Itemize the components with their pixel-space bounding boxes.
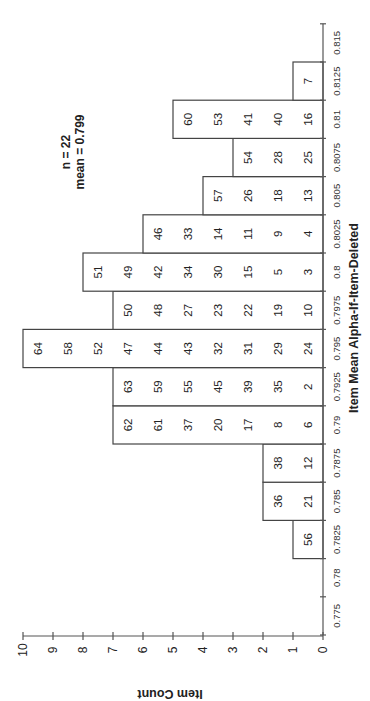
- item-number-label: 64: [32, 342, 44, 355]
- histogram-chart: 5621361238681720376162235394555596324293…: [0, 0, 370, 701]
- item-number-label: 45: [212, 380, 224, 393]
- item-number-label: 44: [152, 342, 164, 355]
- item-number-label: 15: [242, 266, 254, 279]
- item-number-label: 31: [242, 342, 254, 355]
- item-number-label: 11: [242, 228, 254, 240]
- alpha-axis: 0.7750.780.78250.7850.78750.790.79250.79…: [320, 24, 342, 635]
- item-number-label: 2: [302, 383, 314, 389]
- item-number-label: 20: [212, 419, 224, 432]
- item-number-label: 14: [212, 227, 224, 240]
- item-number-label: 46: [152, 228, 164, 241]
- annotation-mean: mean = 0.799: [73, 114, 87, 189]
- item-number-label: 39: [242, 380, 254, 393]
- alpha-tick-label: 0.7875: [331, 449, 342, 478]
- count-tick-label: 8: [76, 646, 90, 653]
- item-number-label: 62: [122, 419, 134, 432]
- alpha-axis-title: Item Mean Alpha-If-Item-Deleted: [347, 223, 361, 413]
- alpha-tick-label: 0.81: [331, 110, 342, 129]
- alpha-tick-label: 0.7925: [331, 372, 342, 401]
- item-number-label: 24: [302, 342, 314, 355]
- alpha-tick-label: 0.805: [331, 184, 342, 208]
- alpha-tick-label: 0.7975: [331, 296, 342, 325]
- count-tick-label: 4: [196, 646, 210, 653]
- item-number-label: 16: [302, 113, 314, 126]
- alpha-tick-label: 0.8: [331, 265, 342, 278]
- item-number-label: 53: [212, 113, 224, 126]
- item-number-label: 38: [272, 457, 284, 470]
- count-tick-label: 0: [316, 646, 330, 653]
- count-tick-label: 7: [106, 646, 120, 653]
- item-number-label: 49: [122, 266, 134, 279]
- item-number-label: 29: [272, 342, 284, 355]
- item-number-label: 57: [212, 189, 224, 202]
- item-number-label: 37: [182, 419, 194, 432]
- item-number-label: 17: [242, 419, 254, 432]
- item-number-label: 40: [272, 113, 284, 126]
- item-number-label: 26: [242, 189, 254, 202]
- item-number-label: 19: [272, 304, 284, 317]
- item-number-label: 30: [212, 266, 224, 279]
- count-tick-label: 2: [256, 646, 270, 653]
- histogram-bar: [83, 253, 323, 291]
- item-number-label: 35: [272, 380, 284, 393]
- alpha-tick-label: 0.785: [331, 489, 342, 513]
- item-number-label: 23: [212, 304, 224, 317]
- count-tick-label: 9: [46, 646, 60, 653]
- item-number-label: 55: [182, 380, 194, 393]
- item-number-label: 12: [302, 457, 314, 470]
- item-number-label: 34: [182, 265, 194, 278]
- histogram-bar: [143, 215, 323, 253]
- item-number-label: 47: [122, 342, 134, 355]
- item-number-label: 8: [272, 422, 284, 428]
- alpha-tick-label: 0.8075: [331, 143, 342, 172]
- item-number-label: 13: [302, 189, 314, 202]
- alpha-tick-label: 0.79: [331, 416, 342, 435]
- item-number-label: 27: [182, 304, 194, 317]
- item-number-label: 41: [242, 113, 254, 126]
- count-tick-label: 10: [16, 643, 30, 657]
- item-number-label: 18: [272, 189, 284, 202]
- count-tick-label: 1: [286, 646, 300, 653]
- count-tick-label: 6: [136, 646, 150, 653]
- item-number-label: 25: [302, 151, 314, 164]
- item-number-label: 10: [302, 304, 314, 317]
- alpha-tick-label: 0.775: [331, 604, 342, 628]
- item-number-label: 5: [272, 269, 284, 275]
- annotation-box: n = 22 mean = 0.799: [59, 114, 87, 189]
- count-axis-title: Item Count: [137, 687, 203, 701]
- item-number-label: 50: [122, 304, 134, 317]
- item-number-label: 32: [212, 342, 224, 355]
- item-number-label: 3: [302, 269, 314, 275]
- item-number-label: 56: [302, 533, 314, 546]
- count-tick-label: 5: [166, 646, 180, 653]
- item-number-label: 59: [152, 380, 164, 393]
- alpha-tick-label: 0.815: [331, 31, 342, 55]
- item-number-label: 60: [182, 113, 194, 126]
- item-number-label: 22: [242, 304, 254, 317]
- item-number-label: 54: [242, 151, 254, 164]
- item-number-label: 7: [302, 78, 314, 84]
- item-number-label: 48: [152, 304, 164, 317]
- item-number-label: 58: [62, 342, 74, 355]
- item-number-label: 33: [182, 228, 194, 241]
- item-number-label: 6: [302, 422, 314, 428]
- alpha-tick-label: 0.795: [331, 337, 342, 361]
- alpha-tick-label: 0.7825: [331, 525, 342, 554]
- item-number-label: 63: [122, 380, 134, 393]
- count-tick-label: 3: [226, 646, 240, 653]
- alpha-tick-label: 0.8125: [331, 67, 342, 96]
- alpha-tick-label: 0.8025: [331, 219, 342, 248]
- alpha-tick-label: 0.78: [331, 568, 342, 587]
- item-number-label: 52: [92, 342, 104, 355]
- item-number-label: 28: [272, 151, 284, 164]
- annotation-n: n = 22: [59, 135, 73, 170]
- count-axis: 012345678910: [16, 632, 330, 657]
- item-number-label: 9: [272, 231, 284, 237]
- item-number-label: 51: [92, 266, 104, 279]
- item-number-label: 42: [152, 266, 164, 279]
- item-number-label: 43: [182, 342, 194, 355]
- item-number-label: 36: [272, 495, 284, 508]
- item-number-label: 4: [302, 230, 314, 237]
- item-number-label: 21: [302, 495, 314, 508]
- item-number-label: 61: [152, 419, 164, 432]
